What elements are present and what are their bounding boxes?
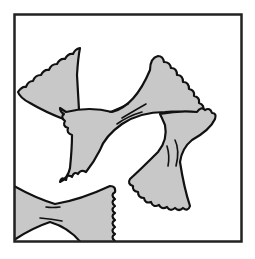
pasta-piece-bottom-left xyxy=(14,186,115,247)
pasta-piece-top-left xyxy=(18,48,80,120)
illustration xyxy=(0,0,255,259)
pasta-piece-right xyxy=(129,108,216,210)
farfalle-illustration xyxy=(0,0,255,259)
